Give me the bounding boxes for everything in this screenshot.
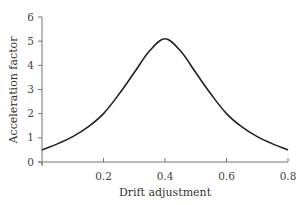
x-tick-label: 0.8: [280, 170, 297, 182]
y-axis: 0123456: [27, 11, 42, 168]
x-axis: 0.20.40.60.8: [38, 158, 296, 182]
y-tick-label: 6: [27, 11, 34, 23]
data-line: [42, 39, 288, 150]
y-tick-label: 5: [27, 35, 34, 47]
line-chart: 0123456 0.20.40.60.8 Drift adjustment Ac…: [0, 0, 303, 205]
y-tick-label: 3: [27, 83, 34, 95]
y-tick-label: 1: [27, 131, 34, 143]
x-tick-label: 0.2: [95, 170, 112, 182]
y-tick-label: 4: [27, 59, 34, 71]
x-axis-label: Drift adjustment: [119, 186, 212, 199]
x-tick-label: 0.4: [157, 170, 174, 182]
y-axis-label: Acceleration factor: [7, 36, 20, 145]
y-tick-label: 2: [27, 107, 34, 119]
y-tick-label: 0: [27, 156, 34, 168]
x-tick-label: 0.6: [218, 170, 235, 182]
